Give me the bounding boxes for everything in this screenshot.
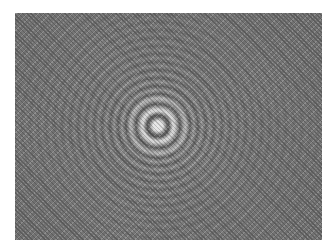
film-grain bbox=[15, 13, 322, 240]
interference-ring-photo bbox=[15, 13, 322, 240]
